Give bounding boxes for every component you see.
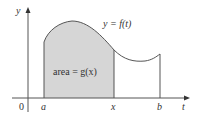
tick-label-b: b [157,101,162,112]
shaded-area [44,21,114,98]
y-axis-label: y [15,5,21,16]
curve-label: y = f(t) [102,18,132,30]
area-label: area = g(x) [53,66,97,78]
t-axis-arrow-icon [184,96,190,101]
t-axis-label: t [182,101,185,112]
y-axis-arrow-icon [26,7,31,13]
tick-label-a: a [41,101,46,112]
tick-label-x: x [110,101,116,112]
origin-label: 0 [19,101,24,112]
area-function-diagram: y t 0 a x b y = f(t) area = g(x) [0,0,201,118]
